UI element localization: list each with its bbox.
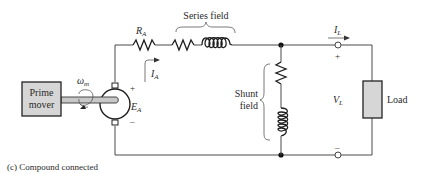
ea-label: EA [130,101,142,114]
terminal-minus-label: – [334,142,340,152]
shunt-field-brace [260,64,270,140]
generator-minus: – [129,116,135,126]
prime-mover-label-1: Prime [30,87,54,98]
shunt-field-label-1: Shunt [235,88,259,99]
terminal-bottom [335,152,341,158]
ra-label: RA [135,25,147,38]
il-label: IL [333,24,341,37]
compound-generator-diagram: Prime mover ωm + – EA RA IA Series field… [0,0,425,174]
load-label: Load [387,94,408,105]
vl-label: VL [333,94,343,107]
prime-mover-label-2: mover [29,99,55,110]
brush-bottom [112,120,118,125]
shunt-field-coil [278,108,288,136]
series-field-coil [202,38,232,48]
terminal-plus-label: + [335,51,340,61]
generator-plus: + [130,83,135,93]
shaft [61,97,118,103]
shunt-field-label-2: field [240,100,258,111]
series-field-brace [176,22,235,33]
generator-armature [100,89,130,119]
series-field-label: Series field [183,10,228,21]
ia-arrow-head [154,58,160,63]
terminal-top [335,42,341,48]
ra-resistor [133,40,155,50]
brush-top [112,83,118,88]
ia-label: IA [150,68,159,81]
il-arrow-head [344,36,350,41]
series-field-resistor [172,40,194,50]
caption: (c) Compound connected [7,162,98,172]
omega-label: ωm [77,75,89,88]
shunt-field-resistor [276,62,286,84]
load-box [363,81,382,118]
